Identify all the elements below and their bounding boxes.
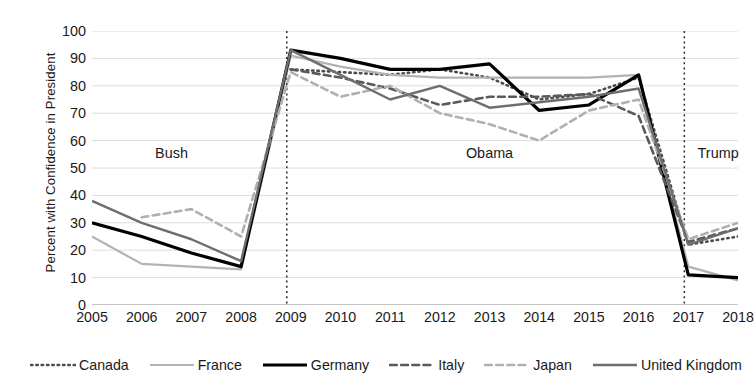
y-tick-label: 80 bbox=[48, 79, 86, 93]
chart-legend: CanadaFranceGermanyItalyJapanUnited King… bbox=[30, 352, 730, 378]
legend-item-united-kingdom[interactable]: United Kingdom bbox=[592, 358, 742, 372]
x-axis-tick-labels: 2005200620072008200920102011201220132014… bbox=[92, 310, 738, 332]
legend-item-germany[interactable]: Germany bbox=[262, 358, 369, 372]
legend-swatch-germany bbox=[262, 358, 308, 372]
plot-svg bbox=[92, 31, 738, 305]
legend-label-united-kingdom: United Kingdom bbox=[641, 358, 742, 372]
legend-swatch-japan bbox=[484, 358, 530, 372]
y-tick-label: 20 bbox=[48, 243, 86, 257]
legend-swatch-france bbox=[149, 358, 195, 372]
y-axis-tick-labels: 0102030405060708090100 bbox=[48, 20, 86, 305]
legend-label-france: France bbox=[198, 358, 242, 372]
era-label-obama: Obama bbox=[466, 145, 513, 161]
legend-label-canada: Canada bbox=[79, 358, 129, 372]
legend-item-france[interactable]: France bbox=[149, 358, 242, 372]
y-tick-label: 50 bbox=[48, 161, 86, 175]
x-tick-label: 2018 bbox=[708, 310, 755, 324]
chart-container: Percent with Confidence in President 010… bbox=[0, 0, 755, 391]
series-line-italy bbox=[291, 69, 738, 242]
y-tick-label: 30 bbox=[48, 216, 86, 230]
y-tick-label: 90 bbox=[48, 51, 86, 65]
legend-item-canada[interactable]: Canada bbox=[30, 358, 129, 372]
y-tick-label: 10 bbox=[48, 270, 86, 284]
legend-label-germany: Germany bbox=[311, 358, 369, 372]
plot-area bbox=[92, 31, 738, 305]
era-label-bush: Bush bbox=[155, 145, 188, 161]
legend-label-italy: Italy bbox=[438, 358, 464, 372]
series-line-japan bbox=[142, 72, 738, 239]
legend-item-japan[interactable]: Japan bbox=[484, 358, 572, 372]
y-tick-label: 40 bbox=[48, 188, 86, 202]
series-line-germany bbox=[92, 50, 738, 277]
legend-swatch-united-kingdom bbox=[592, 358, 638, 372]
y-tick-label: 60 bbox=[48, 133, 86, 147]
y-tick-label: 100 bbox=[48, 24, 86, 38]
legend-swatch-italy bbox=[389, 358, 435, 372]
era-label-trump: Trump bbox=[698, 145, 739, 161]
legend-item-italy[interactable]: Italy bbox=[389, 358, 464, 372]
y-tick-label: 70 bbox=[48, 106, 86, 120]
legend-label-japan: Japan bbox=[533, 358, 572, 372]
legend-swatch-canada bbox=[30, 358, 76, 372]
